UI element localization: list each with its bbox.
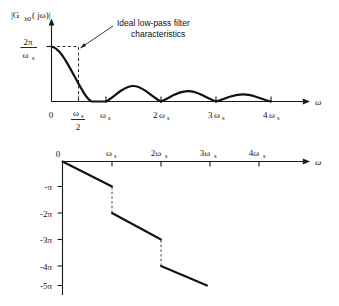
annotation-leader: [80, 26, 113, 48]
phase-xtick-3ws-subscript: s: [214, 152, 217, 159]
phase-xtick-2ws-subscript: s: [165, 152, 168, 159]
phase-ytick-label-neg-2pi: -2π: [40, 209, 52, 219]
magnitude-x-axis-arrowhead: [303, 99, 310, 105]
phase-xtick-ws-subscript: s: [114, 152, 117, 159]
phase-ytick-label-neg-3pi: -3π: [40, 235, 52, 245]
figure-canvas: |G h0 ( jω)| 2π ω s Ideal low-pass filte…: [0, 0, 339, 306]
xtick-3ws-coef: 3: [208, 110, 213, 120]
magnitude-xtick-label-half-ws: ω s 2: [71, 108, 85, 132]
phase-xtick-label-4ws: 4ω s: [249, 148, 266, 159]
annotation-leader-arrowhead: [80, 43, 86, 48]
xtick-2ws-coef: 2: [153, 110, 158, 120]
ytick-denominator: ω: [23, 50, 29, 60]
phase-xtick-ws-symbol: ω: [106, 148, 112, 158]
annotation-line-1: Ideal low-pass filter: [117, 18, 190, 28]
phase-xtick-label-3ws: 3ω s: [200, 148, 217, 159]
xtick-4ws-subscript: s: [277, 114, 280, 121]
phase-origin-label: 0: [56, 149, 61, 159]
xtick-2ws-subscript: s: [167, 114, 170, 121]
y-axis-label-prefix: |G: [11, 10, 20, 20]
annotation-leader-line: [84, 26, 113, 46]
ytick-denominator-subscript: s: [32, 54, 35, 61]
phase-x-axis: [63, 159, 311, 165]
phase-x-axis-name: ω: [315, 157, 321, 167]
annotation-line-2: characteristics: [131, 29, 185, 39]
phase-xtick-label-2ws: 2ω s: [151, 148, 168, 159]
half-ws-numerator: ω: [73, 108, 79, 118]
xtick-3ws-symbol: ω: [214, 110, 220, 120]
phase-xtick-4ws-subscript: s: [263, 152, 266, 159]
magnitude-xtick-label-3ws: 3 ω s: [208, 110, 225, 121]
phase-segment-3: [161, 266, 207, 286]
phase-y-ticks: [58, 187, 63, 286]
half-ws-numerator-subscript: s: [81, 112, 84, 119]
phase-panel: 0 ω s 2ω s 3ω s 4ω s -π -2π -3π -4π: [40, 148, 321, 295]
xtick-3ws-subscript: s: [222, 114, 225, 121]
magnitude-y-axis: [49, 19, 55, 102]
phase-xtick-4ws-symbol: 4ω: [249, 148, 260, 158]
figure-root: |G h0 ( jω)| 2π ω s Ideal low-pass filte…: [0, 0, 339, 306]
phase-ytick-label-neg-4pi: -4π: [40, 262, 52, 272]
magnitude-side-lobe-1: [106, 86, 161, 102]
magnitude-side-lobe-3: [216, 94, 271, 101]
phase-ytick-label-neg-pi: -π: [44, 182, 52, 192]
phase-xtick-3ws-symbol: 3ω: [200, 148, 211, 158]
magnitude-x-axis-name: ω: [315, 97, 321, 107]
phase-x-axis-arrowhead: [303, 159, 310, 165]
phase-x-ticks: [112, 162, 259, 167]
magnitude-side-lobe-2: [161, 91, 216, 101]
y-axis-label-argument: ( jω)|: [32, 10, 51, 20]
ytick-numerator: 2π: [23, 37, 33, 47]
ideal-lowpass-annotation: Ideal low-pass filter characteristics: [117, 18, 190, 39]
magnitude-xtick-label-4ws: 4 ω s: [263, 110, 280, 121]
magnitude-ytick-label-peak: 2π ω s: [21, 37, 38, 61]
magnitude-xtick-label-0: 0: [49, 110, 54, 120]
y-axis-label-subscript: h0: [25, 15, 32, 22]
magnitude-y-axis-label: |G h0 ( jω)|: [11, 10, 51, 22]
xtick-ws-subscript: s: [108, 114, 111, 121]
phase-segment-1: [63, 162, 113, 187]
xtick-ws-symbol: ω: [100, 110, 106, 120]
half-ws-denominator: 2: [76, 122, 81, 132]
phase-ytick-label-neg-5pi: -5π: [40, 281, 52, 291]
xtick-4ws-symbol: ω: [269, 110, 275, 120]
phase-xtick-2ws-symbol: 2ω: [151, 148, 162, 158]
phase-xtick-label-ws: ω s: [106, 148, 117, 159]
phase-segment-2: [112, 213, 161, 240]
xtick-2ws-symbol: ω: [159, 110, 165, 120]
magnitude-xtick-label-2ws: 2 ω s: [153, 110, 170, 121]
magnitude-xtick-label-ws: ω s: [100, 110, 111, 121]
xtick-4ws-coef: 4: [263, 110, 268, 120]
magnitude-panel: |G h0 ( jω)| 2π ω s Ideal low-pass filte…: [11, 10, 321, 132]
